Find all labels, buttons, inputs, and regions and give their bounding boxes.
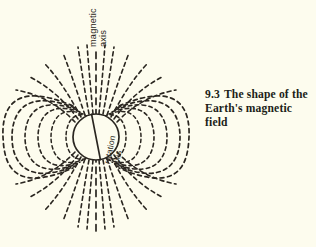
figure-caption-line2: Earth's magnetic field	[205, 102, 292, 129]
figure-number: 9.3	[205, 88, 220, 101]
figure-caption-line1: The shape of the	[224, 88, 308, 101]
figure-page: magnetic axis rotation axis 9.3The shape…	[0, 0, 316, 247]
polar-line-south-5	[78, 160, 89, 227]
polar-line-north-5	[78, 47, 89, 114]
polar-line-north-8	[103, 47, 114, 114]
magnetic-axis-label-line2: axis	[98, 8, 108, 47]
magnetic-axis-label: magnetic axis	[88, 8, 109, 47]
magnetic-axis-label-line1: magnetic	[88, 8, 98, 47]
polar-line-south-8	[103, 160, 114, 227]
figure-caption: 9.3The shape of the Earth's magnetic fie…	[205, 88, 315, 131]
